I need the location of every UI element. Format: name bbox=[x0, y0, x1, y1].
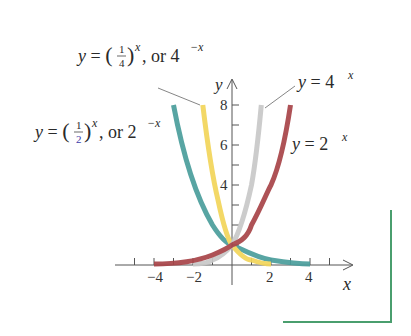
svg-text:x: x bbox=[347, 68, 354, 82]
svg-text:y = (: y = ( bbox=[33, 118, 69, 143]
svg-text:): ) bbox=[84, 118, 91, 143]
label-half: y = ( 1 2 ) x , or 2 −x bbox=[33, 116, 161, 145]
svg-text:, or 2: , or 2 bbox=[99, 122, 137, 142]
svg-text:): ) bbox=[127, 42, 134, 67]
svg-text:−x: −x bbox=[147, 116, 161, 130]
svg-text:4: 4 bbox=[119, 57, 125, 69]
svg-text:2: 2 bbox=[76, 133, 82, 145]
svg-text:y = 2: y = 2 bbox=[290, 134, 328, 154]
y-ticks bbox=[232, 105, 239, 245]
svg-text:1: 1 bbox=[76, 119, 82, 131]
label-quarter: y = ( 1 4 ) x , or 4 −x bbox=[76, 40, 204, 69]
leader-quarter bbox=[158, 88, 200, 105]
exponential-chart: −4 −2 2 4 8 6 4 x y y = ( 1 4 ) x , or 4… bbox=[0, 0, 411, 336]
svg-text:y = (: y = ( bbox=[76, 42, 112, 67]
tick-label-y6: 6 bbox=[220, 137, 228, 153]
svg-text:x: x bbox=[341, 130, 348, 144]
tick-label-2: 2 bbox=[266, 269, 274, 285]
svg-text:y = 4: y = 4 bbox=[296, 72, 334, 92]
tick-label-y4: 4 bbox=[220, 177, 228, 193]
svg-text:x: x bbox=[91, 116, 98, 130]
y-axis-label: y bbox=[213, 75, 223, 94]
tick-label-y8: 8 bbox=[220, 97, 228, 113]
tick-label-neg2: −2 bbox=[186, 269, 202, 285]
leader-four-x bbox=[265, 86, 295, 108]
svg-text:−x: −x bbox=[190, 40, 204, 54]
tick-label-neg4: −4 bbox=[147, 269, 163, 285]
label-four-x: y = 4 x bbox=[296, 68, 354, 92]
label-two-x: y = 2 x bbox=[290, 130, 348, 154]
svg-text:1: 1 bbox=[119, 43, 125, 55]
svg-text:, or 4: , or 4 bbox=[142, 46, 180, 66]
tick-label-4: 4 bbox=[305, 269, 313, 285]
svg-text:x: x bbox=[134, 40, 141, 54]
x-axis-label: x bbox=[342, 274, 351, 294]
